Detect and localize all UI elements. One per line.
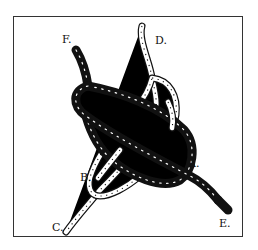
knot-drawing: .dk-base { fill: none; stroke: #111; str… (0, 0, 258, 250)
label-d: D. (155, 34, 167, 47)
label-a: A. (188, 157, 199, 170)
label-e: E. (219, 217, 231, 230)
label-b: B. (80, 171, 92, 184)
label-f: F. (62, 33, 71, 46)
label-c: C. (52, 221, 64, 234)
